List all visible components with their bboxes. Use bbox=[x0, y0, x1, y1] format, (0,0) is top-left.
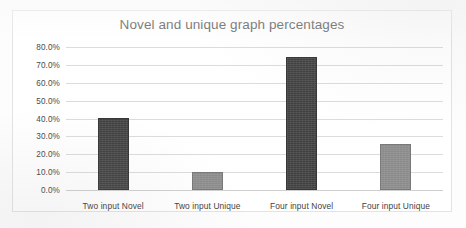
y-axis-tick-label: 40.0% bbox=[36, 114, 60, 123]
y-axis-tick-label: 20.0% bbox=[36, 150, 60, 159]
y-axis-tick-label: 70.0% bbox=[36, 60, 60, 69]
bar[interactable] bbox=[98, 118, 129, 190]
gridline bbox=[66, 101, 443, 102]
bar[interactable] bbox=[286, 57, 317, 190]
gridline bbox=[66, 65, 443, 66]
bar[interactable] bbox=[380, 144, 411, 190]
y-axis-tick-label: 30.0% bbox=[36, 132, 60, 141]
gridline bbox=[66, 47, 443, 48]
x-axis-category-label: Four input Novel bbox=[270, 201, 333, 211]
x-axis-category-label: Two input Novel bbox=[83, 201, 144, 211]
y-axis-tick-label: 80.0% bbox=[36, 43, 60, 52]
gridline bbox=[66, 83, 443, 84]
plot-area: 80.0%70.0%60.0%50.0%40.0%30.0%20.0%10.0%… bbox=[66, 47, 443, 190]
y-axis-tick-label: 0.0% bbox=[41, 186, 60, 195]
chart-container: Novel and unique graph percentages 80.0%… bbox=[12, 10, 452, 212]
y-axis-tick-label: 10.0% bbox=[36, 168, 60, 177]
chart-title: Novel and unique graph percentages bbox=[13, 17, 451, 32]
x-axis-category-label: Four input Unique bbox=[362, 201, 430, 211]
bar[interactable] bbox=[192, 172, 223, 190]
y-axis-tick-label: 50.0% bbox=[36, 96, 60, 105]
gridline bbox=[66, 190, 443, 191]
y-axis-tick-label: 60.0% bbox=[36, 78, 60, 87]
x-axis-category-label: Two input Unique bbox=[174, 201, 240, 211]
scanned-page-background: Novel and unique graph percentages 80.0%… bbox=[0, 0, 466, 228]
